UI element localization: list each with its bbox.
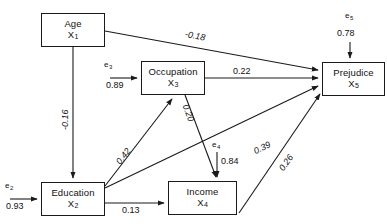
node-occupation[interactable]: Occupation X3 [141,61,205,95]
edge-education-prejudice [105,86,318,188]
edge-income-prejudice [239,94,320,213]
error-coefficient-e5: 0.78 [337,28,355,38]
node-prejudice-variable: X5 [348,79,359,90]
node-occupation-variable: X3 [168,78,179,89]
error-label-e4: e4 [212,140,220,150]
node-education[interactable]: Education X2 [41,182,105,216]
error-label-e2: e2 [5,181,13,191]
path-coefficient-occupation-prejudice: 0.22 [233,66,251,76]
error-label-e3: e3 [104,60,112,70]
node-income-variable: X4 [197,198,208,209]
path-coefficient-age-education: -0.16 [60,109,70,130]
node-prejudice[interactable]: Prejudice X5 [322,62,385,96]
node-age[interactable]: Age X1 [41,13,105,47]
error-coefficient-e4: 0.84 [221,156,239,166]
error-coefficient-e3: 0.89 [106,80,124,90]
node-education-variable: X2 [68,199,79,210]
node-age-variable: X1 [68,30,79,41]
edge-age-prejudice [105,31,318,70]
error-coefficient-e2: 0.93 [6,201,24,211]
path-diagram-canvas: Age X1 Occupation X3 Prejudice X5 Educat… [0,0,387,224]
edge-education-occupation [105,99,172,186]
error-label-e5: e5 [345,11,353,21]
node-income[interactable]: Income X4 [168,181,237,215]
path-coefficient-education-income: 0.13 [122,205,140,215]
